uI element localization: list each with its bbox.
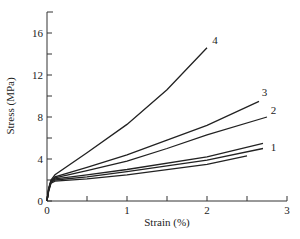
x-tick-label: 2 [204, 204, 210, 216]
curve-label-2: 2 [271, 104, 277, 116]
curve-1b [47, 149, 263, 202]
stress-strain-chart: 04812160123 4321 Strain (%) Stress (MPa) [0, 0, 300, 239]
curve-label-3: 3 [262, 86, 268, 98]
axes: 04812160123 [32, 12, 290, 216]
curve-label-4: 4 [212, 34, 218, 46]
y-tick-label: 12 [32, 69, 43, 81]
y-axis-title: Stress (MPa) [4, 77, 17, 134]
curve-3 [47, 101, 259, 201]
x-tick-label: 0 [44, 204, 50, 216]
x-axis-title: Strain (%) [144, 216, 190, 229]
x-tick-label: 3 [284, 204, 290, 216]
y-tick-label: 4 [38, 153, 44, 165]
y-tick-label: 16 [32, 27, 44, 39]
y-tick-label: 0 [38, 195, 44, 207]
curve-label-1: 1 [271, 141, 277, 153]
x-tick-label: 1 [124, 204, 130, 216]
curve-labels: 4321 [212, 34, 276, 153]
y-tick-label: 8 [38, 111, 44, 123]
curves [47, 48, 267, 201]
